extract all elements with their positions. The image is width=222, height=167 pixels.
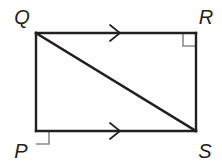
- geometry-figure-container: Q R S P: [0, 0, 222, 167]
- vertex-label-p: P: [14, 140, 28, 162]
- vertex-label-q: Q: [14, 6, 30, 28]
- vertex-label-s: S: [198, 140, 212, 162]
- quadrilateral-pqrs-diagram: Q R S P: [0, 0, 222, 167]
- vertex-label-r: R: [199, 6, 213, 28]
